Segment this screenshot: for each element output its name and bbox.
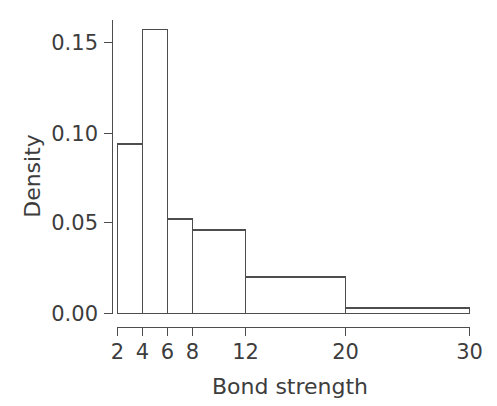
histogram-bar: [143, 30, 168, 314]
x-tick-label: 12: [232, 340, 259, 364]
histogram-bar: [246, 277, 346, 313]
histogram-bar: [168, 219, 193, 314]
x-axis-title: Bond strength: [212, 374, 368, 399]
x-tick-label: 6: [161, 340, 174, 364]
x-tick-label: 4: [136, 340, 149, 364]
y-tick-label: 0.15: [51, 31, 98, 55]
y-tick-label: 0.00: [51, 302, 98, 326]
x-tick-marks: [118, 328, 470, 337]
x-tick-label: 20: [332, 340, 359, 364]
x-tick-label: 8: [186, 340, 199, 364]
plot-canvas: 0.00 0.05 0.10 0.15 2 4 6 8 12 20 30 Bon…: [0, 0, 497, 406]
y-axis-title: Density: [20, 134, 45, 218]
histogram-figure: 0.00 0.05 0.10 0.15 2 4 6 8 12 20 30 Bon…: [0, 0, 497, 406]
x-tick-labels: 2 4 6 8 12 20 30: [111, 340, 483, 364]
histogram-bar: [118, 144, 143, 313]
histogram-bar: [346, 308, 470, 313]
histogram-bars: [118, 30, 470, 314]
y-tick-labels: 0.00 0.05 0.10 0.15: [51, 31, 98, 326]
x-tick-label: 30: [456, 340, 483, 364]
histogram-bar: [193, 230, 246, 314]
y-tick-label: 0.10: [51, 122, 98, 146]
y-tick-label: 0.05: [51, 211, 98, 235]
x-tick-label: 2: [111, 340, 124, 364]
y-tick-marks: [104, 43, 113, 314]
